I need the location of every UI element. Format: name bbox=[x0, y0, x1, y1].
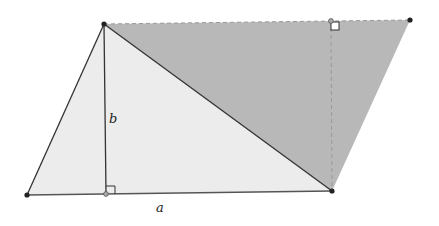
diagram-canvas bbox=[0, 0, 439, 226]
vertex-point[interactable] bbox=[101, 21, 106, 26]
vertex-point[interactable] bbox=[24, 192, 29, 197]
parallelogram-diagram: b a bbox=[0, 0, 439, 226]
base-label: a bbox=[156, 200, 164, 215]
foot-point[interactable] bbox=[104, 192, 109, 197]
height-label: b bbox=[109, 111, 117, 126]
vertex-point[interactable] bbox=[407, 17, 412, 22]
foot-point[interactable] bbox=[329, 19, 334, 24]
vertex-point[interactable] bbox=[329, 188, 334, 193]
